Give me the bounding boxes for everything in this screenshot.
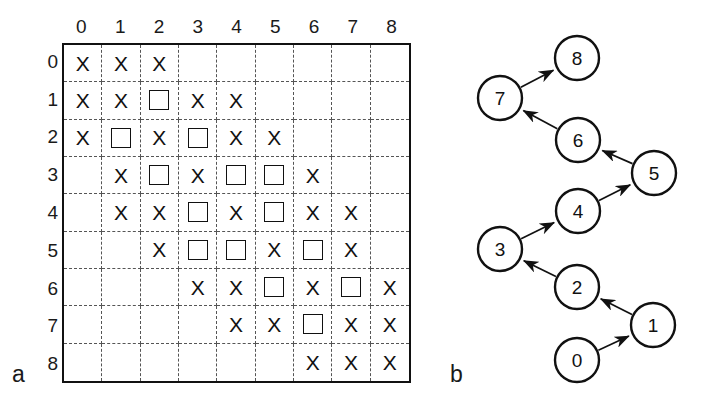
graph-node-4[interactable]: 4 [556,189,600,233]
grid-row-header-6: 6 [32,270,58,308]
x-mark-icon: X [191,165,205,186]
grid-cell-r8-c2 [141,344,179,381]
grid-cell-r1-c8 [371,82,409,119]
graph-node-label-7: 7 [495,88,506,109]
grid-cell-r8-c4 [217,344,255,381]
x-mark-icon: X [306,352,320,373]
graph-node-5[interactable]: 5 [632,151,676,195]
grid-cell-r1-c6 [294,82,332,119]
x-mark-icon: X [76,53,90,74]
grid-row-header-4: 4 [32,194,58,232]
grid-row-header-8: 8 [32,345,58,383]
grid-row-header-2: 2 [32,119,58,157]
square-mark-icon [264,277,284,297]
grid-cell-r7-c3 [179,306,217,343]
square-mark-icon [111,128,131,148]
grid-cell-r6-c4: X [217,269,255,306]
grid-row-header-0: 0 [32,43,58,81]
grid-cell-r3-c7 [332,157,370,194]
graph-edge-7-to-8 [521,70,554,87]
grid-cell-r0-c5 [256,45,294,82]
graph-node-2[interactable]: 2 [555,265,599,309]
grid-cell-r5-c8 [371,232,409,269]
grid-column-header-row: 012345678 [62,14,411,40]
graph-canvas: 012345678 [440,0,715,410]
grid-column-header-0: 0 [62,14,101,40]
x-mark-icon: X [76,127,90,148]
grid-cell-r7-c4: X [217,306,255,343]
grid-cell-r7-c5: X [256,306,294,343]
grid-cell-r1-c2 [141,82,179,119]
x-mark-icon: X [229,90,243,111]
grid-cell-r5-c6 [294,232,332,269]
grid-row-header-7: 7 [32,307,58,345]
x-mark-icon: X [152,202,166,223]
graph-node-3[interactable]: 3 [478,227,522,271]
x-mark-icon: X [229,202,243,223]
graph-edge-1-to-2 [601,299,632,315]
graph-node-6[interactable]: 6 [556,118,600,162]
x-mark-icon: X [383,314,397,335]
grid-cell-r6-c3: X [179,269,217,306]
grid-cell-r0-c4 [217,45,255,82]
grid-cell-r0-c0: X [64,45,102,82]
grid-cell-r7-c8: X [371,306,409,343]
grid-cell-r0-c8 [371,45,409,82]
grid-column-header-2: 2 [140,14,179,40]
x-mark-icon: X [114,53,128,74]
grid-cell-r8-c8: X [371,344,409,381]
grid-cell-r6-c1 [102,269,140,306]
graph-node-label-2: 2 [572,277,583,298]
grid-row-header-5: 5 [32,232,58,270]
grid-cell-r6-c2 [141,269,179,306]
grid-cell-r5-c0 [64,232,102,269]
x-mark-icon: X [306,202,320,223]
grid-cell-r4-c3 [179,194,217,231]
x-mark-icon: X [344,352,358,373]
grid-cell-r8-c1 [102,344,140,381]
x-mark-icon: X [229,314,243,335]
grid-cell-r2-c1 [102,120,140,157]
grid-border: XXXXXXXXXXXXXXXXXXXXXXXXXXXXXXXXX [62,43,411,383]
panel-b-caption: b [450,363,463,386]
grid-cell-r3-c1: X [102,157,140,194]
grid-column-header-3: 3 [178,14,217,40]
x-mark-icon: X [76,90,90,111]
grid-cell-r8-c7: X [332,344,370,381]
graph-edge-0-to-1 [598,336,629,350]
x-mark-icon: X [383,352,397,373]
grid-cell-r0-c2: X [141,45,179,82]
grid-cells-container: XXXXXXXXXXXXXXXXXXXXXXXXXXXXXXXXX [64,45,409,381]
grid-cell-r7-c0 [64,306,102,343]
x-mark-icon: X [344,239,358,260]
graph-node-0[interactable]: 0 [555,338,599,382]
grid-cell-r2-c5: X [256,120,294,157]
graph-node-label-4: 4 [573,201,584,222]
panel-a-caption: a [12,363,25,386]
graph-node-label-8: 8 [572,48,583,69]
grid-column-header-1: 1 [101,14,140,40]
grid-cell-r0-c1: X [102,45,140,82]
graph-node-1[interactable]: 1 [631,303,675,347]
grid-cell-r2-c7 [332,120,370,157]
grid-cell-r7-c6 [294,306,332,343]
graph-node-7[interactable]: 7 [478,76,522,120]
grid-cell-r1-c3: X [179,82,217,119]
grid-cell-r3-c6: X [294,157,332,194]
x-mark-icon: X [114,165,128,186]
graph-node-8[interactable]: 8 [555,36,599,80]
grid-cell-r6-c0 [64,269,102,306]
square-mark-icon [188,128,208,148]
x-mark-icon: X [383,277,397,298]
x-mark-icon: X [267,314,281,335]
grid-cell-r5-c3 [179,232,217,269]
panel-b-graph-figure: 012345678 [440,0,715,410]
graph-node-label-6: 6 [573,130,584,151]
square-mark-icon [188,240,208,260]
square-mark-icon [226,240,246,260]
graph-edge-5-to-6 [602,151,632,164]
grid-cell-r8-c5 [256,344,294,381]
x-mark-icon: X [229,127,243,148]
grid-cell-r4-c7: X [332,194,370,231]
square-mark-icon [149,90,169,110]
